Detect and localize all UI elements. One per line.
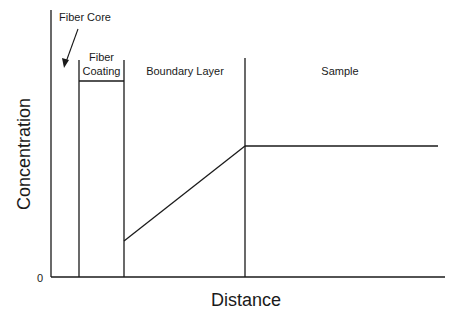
y-axis-label: Concentration — [14, 98, 35, 210]
diagram-lines — [0, 0, 454, 321]
label-fiber-coating-line2: Coating — [79, 65, 124, 78]
origin-label: 0 — [37, 272, 43, 284]
label-fiber-coating-line1: Fiber — [79, 51, 124, 64]
fiber-core-arrow-shaft — [66, 29, 78, 62]
concentration-diagram: Fiber Core Fiber Coating Boundary Layer … — [0, 0, 454, 321]
boundary-gradient-line — [124, 146, 245, 241]
x-axis-label: Distance — [211, 290, 281, 311]
label-sample: Sample — [300, 65, 380, 78]
fiber-core-arrow-icon — [62, 58, 69, 68]
label-boundary-layer: Boundary Layer — [140, 65, 230, 78]
label-fiber-core: Fiber Core — [59, 11, 111, 24]
